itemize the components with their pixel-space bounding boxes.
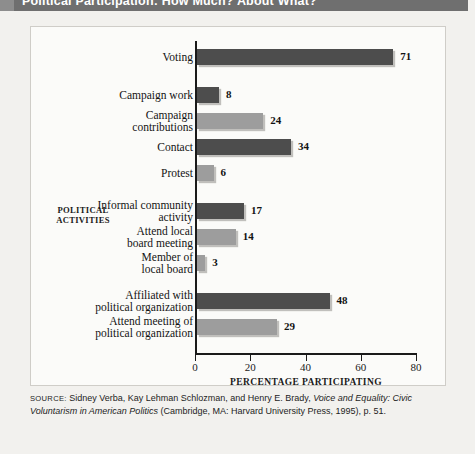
- x-axis-tick-label: 60: [355, 361, 366, 373]
- bar: [197, 49, 393, 65]
- bar-value-label: 24: [270, 114, 281, 126]
- bar: [197, 255, 205, 271]
- bar-category-label: Campaign work: [119, 89, 193, 102]
- bar-value-label: 3: [212, 256, 218, 268]
- bar-category-label: Member of local board: [142, 251, 193, 276]
- bar-row: Campaign work8: [31, 87, 447, 103]
- bar-category-label: Protest: [161, 167, 193, 180]
- bar: [197, 229, 236, 245]
- source-text-part-1: Sidney Verba, Kay Lehman Schlozman, and …: [67, 393, 313, 403]
- x-axis-tick-label: 0: [192, 361, 198, 373]
- bar: [197, 87, 219, 103]
- bar-category-label: Contact: [157, 141, 193, 154]
- bar-category-label: Campaign contributions: [132, 109, 193, 134]
- bar-value-label: 48: [337, 294, 348, 306]
- bar-value-label: 8: [226, 88, 232, 100]
- bar-value-label: 14: [243, 230, 254, 242]
- bar-row: Informal community activity17: [31, 203, 447, 219]
- bar: [197, 319, 277, 335]
- bar-category-label: Attend meeting of political organization: [95, 315, 193, 340]
- source-note: SOURCE: Sidney Verba, Kay Lehman Schlozm…: [30, 392, 446, 418]
- bar-row: Attend meeting of political organization…: [31, 319, 447, 335]
- bar-row: Contact34: [31, 139, 447, 155]
- x-axis-title: PERCENTAGE PARTICIPATING: [195, 377, 417, 387]
- x-axis-tick-label: 20: [245, 361, 256, 373]
- bar: [197, 113, 263, 129]
- bar-category-label: Voting: [163, 51, 193, 64]
- bar-row: Affiliated with political organization48: [31, 293, 447, 309]
- bar: [197, 203, 244, 219]
- bar: [197, 139, 291, 155]
- bar-value-label: 17: [251, 204, 262, 216]
- x-axis-tick-label: 80: [411, 361, 422, 373]
- x-axis-tick-label: 40: [300, 361, 311, 373]
- figure-title-banner: Political Participation: How Much? About…: [0, 0, 468, 11]
- bar-value-label: 34: [298, 140, 309, 152]
- bar: [197, 293, 330, 309]
- bar-category-label: Informal community activity: [98, 199, 194, 224]
- bar-row: Protest6: [31, 165, 447, 181]
- bar-row: Attend local board meeting14: [31, 229, 447, 245]
- bar-row: Campaign contributions24: [31, 113, 447, 129]
- bar-category-label: Attend local board meeting: [127, 225, 193, 250]
- bar-value-label: 71: [400, 50, 411, 62]
- bar-chart-plot: POLITICAL ACTIVITIES PERCENTAGE PARTICIP…: [31, 27, 447, 387]
- bar: [197, 165, 214, 181]
- source-text-part-2: (Cambridge, MA: Harvard University Press…: [158, 406, 386, 416]
- bar-value-label: 6: [221, 166, 227, 178]
- source-label: SOURCE:: [30, 394, 67, 403]
- bar-value-label: 29: [284, 320, 295, 332]
- bar-category-label: Affiliated with political organization: [95, 289, 193, 314]
- bar-row: Voting71: [31, 49, 447, 65]
- chart-panel: POLITICAL ACTIVITIES PERCENTAGE PARTICIP…: [30, 26, 446, 386]
- bar-row: Member of local board3: [31, 255, 447, 271]
